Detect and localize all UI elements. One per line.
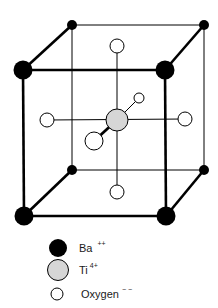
barium-atom — [14, 61, 33, 80]
legend-item-barium: Ba++ — [49, 239, 106, 257]
legend-oxygen-charge: − − — [122, 286, 132, 293]
svg-text:Oxygen− −: Oxygen− − — [81, 286, 132, 300]
barium-atom — [156, 61, 175, 80]
barium-atom — [67, 165, 77, 175]
legend-item-oxygen: Oxygen− − — [51, 286, 132, 300]
svg-text:Ba++: Ba++ — [79, 240, 106, 254]
titanium-legend-icon — [48, 260, 69, 281]
barium-atom — [157, 207, 176, 226]
legend-titanium-charge: 4+ — [90, 262, 98, 269]
legend-barium-symbol: Ba — [79, 242, 93, 254]
oxygen-atom-back — [134, 93, 144, 103]
oxygen-atom-right — [178, 112, 192, 126]
barium-atom — [67, 20, 77, 30]
svg-text:Ti4+: Ti4+ — [79, 262, 98, 276]
oxygen-atom-top — [110, 39, 124, 53]
barium-legend-icon — [49, 239, 67, 257]
titanium-atom — [106, 109, 128, 131]
legend-oxygen-symbol: Oxygen — [81, 288, 119, 300]
legend-barium-charge: ++ — [97, 240, 105, 247]
barium-atom — [199, 165, 209, 175]
legend-item-titanium: Ti4+ — [48, 260, 98, 281]
batio3-unit-cell-diagram: Ba++ Ti4+ Oxygen− − — [0, 0, 218, 308]
barium-atom — [199, 20, 209, 30]
legend-titanium-symbol: Ti — [79, 264, 88, 276]
barium-atom — [15, 207, 34, 226]
oxygen-atom-bottom — [110, 185, 124, 199]
oxygen-atom-front — [85, 132, 103, 150]
legend: Ba++ Ti4+ Oxygen− − — [48, 239, 133, 300]
oxygen-atom-left — [40, 113, 54, 127]
oxygen-legend-icon — [51, 288, 63, 300]
